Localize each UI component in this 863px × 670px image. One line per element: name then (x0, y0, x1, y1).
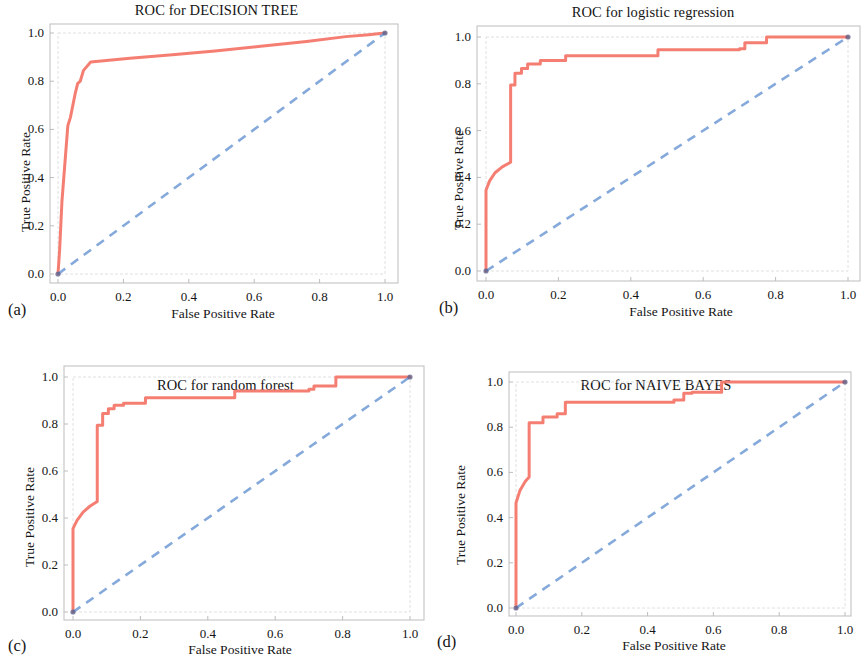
panel-b-ytick-0.8: 0.8 (433, 76, 471, 92)
panel-c-ytick-0.6: 0.6 (20, 463, 58, 479)
panel-b-xtick-0.0: 0.0 (478, 287, 494, 303)
panel-c-ytick-0.2: 0.2 (20, 557, 58, 573)
panel-b-xtick-0.4: 0.4 (623, 287, 639, 303)
panel-c-plot (0, 335, 431, 670)
panel-b-xtick-0.8: 0.8 (767, 287, 783, 303)
panel-a-xtick-0.4: 0.4 (181, 289, 197, 305)
panel-a-ytick-0.8: 0.8 (6, 73, 44, 89)
panel-b-xtick-1.0: 1.0 (840, 287, 856, 303)
panel-d-xtick-1.0: 1.0 (837, 622, 853, 638)
panel-b-plot (431, 0, 863, 335)
panel-b-ytick-0.4: 0.4 (433, 169, 471, 185)
panel-d-xtick-0.2: 0.2 (574, 622, 590, 638)
panel-d-xtick-0.6: 0.6 (705, 622, 721, 638)
panel-b-ytick-0.6: 0.6 (433, 123, 471, 139)
panel-d: ROC for NAIVE BAYES (d) True Positive Ra… (431, 335, 863, 670)
panel-a-xtick-0.6: 0.6 (246, 289, 262, 305)
panel-c-xtick-0.6: 0.6 (267, 626, 283, 642)
panel-d-ytick-0.8: 0.8 (465, 419, 503, 435)
roc-figure-grid: ROC for DECISION TREE (a) True Positive … (0, 0, 863, 670)
panel-d-xtick-0.4: 0.4 (639, 622, 655, 638)
panel-c-ytick-0.8: 0.8 (20, 416, 58, 432)
panel-a-ytick-1.0: 1.0 (6, 25, 44, 41)
panel-a-xtick-0.8: 0.8 (311, 289, 327, 305)
panel-c-xtick-0.4: 0.4 (200, 626, 216, 642)
panel-d-xtick-0.8: 0.8 (771, 622, 787, 638)
panel-b-svg (431, 0, 863, 335)
panel-d-ytick-0.0: 0.0 (465, 600, 503, 616)
panel-a: ROC for DECISION TREE (a) True Positive … (0, 0, 431, 335)
panel-b-xtick-0.2: 0.2 (550, 287, 566, 303)
panel-c-ytick-0.0: 0.0 (20, 604, 58, 620)
panel-c-xtick-1.0: 1.0 (402, 626, 418, 642)
panel-d-ytick-0.2: 0.2 (465, 555, 503, 571)
panel-c-xtick-0.2: 0.2 (132, 626, 148, 642)
panel-b-xtick-0.6: 0.6 (695, 287, 711, 303)
panel-c-xtick-0.0: 0.0 (65, 626, 81, 642)
panel-a-xtick-0.0: 0.0 (50, 289, 66, 305)
panel-d-xtick-0.0: 0.0 (508, 622, 524, 638)
panel-a-xtick-1.0: 1.0 (377, 289, 393, 305)
panel-b-ytick-0.2: 0.2 (433, 216, 471, 232)
panel-a-xtick-0.2: 0.2 (115, 289, 131, 305)
panel-d-ytick-1.0: 1.0 (465, 374, 503, 390)
panel-b-ytick-0.0: 0.0 (433, 263, 471, 279)
panel-c-svg (0, 335, 431, 670)
panel-c-xtick-0.8: 0.8 (334, 626, 350, 642)
panel-a-ytick-0.4: 0.4 (6, 170, 44, 186)
panel-b-ytick-1.0: 1.0 (433, 29, 471, 45)
panel-a-plot (0, 0, 431, 335)
panel-a-svg (0, 0, 431, 335)
panel-d-ytick-0.4: 0.4 (465, 510, 503, 526)
panel-a-ytick-0.6: 0.6 (6, 121, 44, 137)
panel-c-ytick-1.0: 1.0 (20, 369, 58, 385)
panel-c-ytick-0.4: 0.4 (20, 510, 58, 526)
panel-d-ytick-0.6: 0.6 (465, 464, 503, 480)
panel-c: ROC for random forest (c) True Positive … (0, 335, 431, 670)
panel-a-ytick-0.0: 0.0 (6, 266, 44, 282)
panel-b: ROC for logistic regression (b) True Pos… (431, 0, 863, 335)
panel-a-ytick-0.2: 0.2 (6, 218, 44, 234)
